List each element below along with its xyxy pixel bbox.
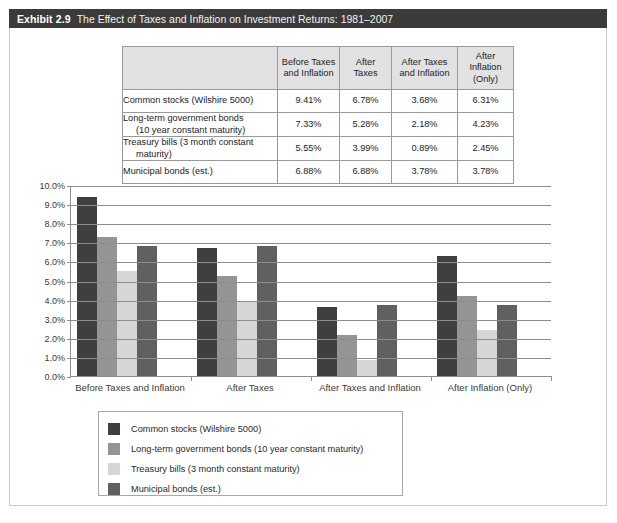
exhibit-number: Exhibit 2.9 (17, 13, 71, 25)
row-label-line-2: (10 year constant maturity) (123, 125, 277, 137)
cell-value: 3.68% (392, 90, 458, 113)
gridline (71, 358, 551, 359)
column-header-after-taxes-and-inflation: After Taxes and Inflation (392, 47, 458, 90)
gridline (71, 224, 551, 225)
exhibit-header-bar: Exhibit 2.9 The Effect of Taxes and Infl… (9, 9, 607, 28)
x-axis-tick-label: After Taxes and Inflation (319, 382, 421, 393)
cell-value: 2.18% (392, 113, 458, 137)
row-label-treasury-bills: Treasury bills (3 month constant maturit… (123, 137, 278, 161)
legend-swatch-icon (108, 423, 120, 435)
cell-value: 5.28% (340, 113, 392, 137)
chart-legend: Common stocks (Wilshire 5000)Long-term g… (98, 411, 403, 496)
y-axis-tick (67, 186, 71, 187)
x-axis-tick (551, 376, 552, 381)
row-label-line-1: Long-term government bonds (123, 113, 244, 123)
cell-value: 2.45% (458, 137, 514, 161)
returns-table: Before Taxes and Inflation After Taxes A… (122, 46, 514, 184)
header-line-1: After (356, 57, 375, 67)
y-axis-tick (67, 243, 71, 244)
cell-value: 6.78% (340, 90, 392, 113)
y-axis-tick (67, 205, 71, 206)
table-row: Long-term government bonds (10 year cons… (123, 113, 514, 137)
y-axis-tick (67, 301, 71, 302)
legend-label: Municipal bonds (est.) (131, 484, 221, 494)
bar (337, 335, 357, 377)
legend-item: Municipal bonds (est.) (108, 479, 402, 498)
table-row: Common stocks (Wilshire 5000) 9.41% 6.78… (123, 90, 514, 113)
cell-value: 3.78% (458, 161, 514, 184)
column-header-blank (123, 47, 278, 90)
legend-item: Long-term government bonds (10 year cons… (108, 439, 402, 458)
cell-value: 7.33% (278, 113, 340, 137)
x-axis-tick-label: Before Taxes and Inflation (75, 382, 185, 393)
gridline (71, 205, 551, 206)
y-axis-tick-label: 1.0% (44, 353, 65, 363)
x-axis-labels: Before Taxes and InflationAfter TaxesAft… (70, 382, 550, 398)
header-line-1: After (476, 51, 495, 61)
gridline (71, 282, 551, 283)
column-header-before-taxes-and-inflation: Before Taxes and Inflation (278, 47, 340, 90)
bar (497, 305, 517, 377)
table-row: Municipal bonds (est.) 6.88% 6.88% 3.78%… (123, 161, 514, 184)
plot-area (70, 186, 551, 377)
header-line-1: After Taxes (402, 57, 448, 67)
y-axis-tick-label: 8.0% (44, 219, 65, 229)
bar (117, 271, 137, 377)
bar (217, 276, 237, 377)
row-label-long-term-government-bonds: Long-term government bonds (10 year cons… (123, 113, 278, 137)
row-label-line-1: Municipal bonds (est.) (123, 166, 213, 176)
legend-label: Treasury bills (3 month constant maturit… (131, 464, 300, 474)
header-line-2: and Inflation (399, 68, 449, 78)
y-axis-tick (67, 339, 71, 340)
row-label-municipal-bonds: Municipal bonds (est.) (123, 161, 278, 184)
header-line-2: Taxes (354, 68, 378, 78)
table-header: Before Taxes and Inflation After Taxes A… (123, 47, 514, 90)
bar (437, 256, 457, 377)
cell-value: 5.55% (278, 137, 340, 161)
bar (477, 330, 497, 377)
exhibit-page: Exhibit 2.9 The Effect of Taxes and Infl… (0, 0, 617, 523)
gridline (71, 320, 551, 321)
cell-value: 6.31% (458, 90, 514, 113)
y-axis-tick (67, 358, 71, 359)
row-label-line-1: Common stocks (Wilshire 5000) (123, 95, 253, 105)
legend-swatch-icon (108, 483, 120, 495)
bar (317, 307, 337, 377)
header-line-1: Before Taxes (282, 57, 335, 67)
gridline (71, 262, 551, 263)
y-axis-tick (67, 377, 71, 378)
legend-swatch-icon (108, 443, 120, 455)
y-axis-tick-label: 9.0% (44, 200, 65, 210)
bar (457, 296, 477, 377)
x-axis-tick-label: After Inflation (Only) (448, 382, 532, 393)
column-header-after-taxes: After Taxes (340, 47, 392, 90)
cell-value: 6.88% (340, 161, 392, 184)
y-axis-tick-label: 2.0% (44, 334, 65, 344)
row-label-line-2: maturity) (123, 149, 277, 161)
legend-label: Common stocks (Wilshire 5000) (131, 424, 261, 434)
legend-label: Long-term government bonds (10 year cons… (131, 444, 363, 454)
table-row: Treasury bills (3 month constant maturit… (123, 137, 514, 161)
gridline (71, 301, 551, 302)
gridline (71, 339, 551, 340)
table-body: Common stocks (Wilshire 5000) 9.41% 6.78… (123, 90, 514, 184)
cell-value: 9.41% (278, 90, 340, 113)
table-header-row: Before Taxes and Inflation After Taxes A… (123, 47, 514, 90)
row-label-line-1: Treasury bills (3 month constant (123, 137, 253, 147)
gridline (71, 243, 551, 244)
y-axis-tick (67, 262, 71, 263)
y-axis-tick-label: 3.0% (44, 315, 65, 325)
legend-swatch-icon (108, 463, 120, 475)
y-axis-tick-label: 4.0% (44, 296, 65, 306)
column-header-after-inflation-only: After Inflation (Only) (458, 47, 514, 90)
exhibit-title: The Effect of Taxes and Inflation on Inv… (77, 13, 394, 25)
y-axis-tick-label: 5.0% (44, 277, 65, 287)
y-axis-tick-label: 6.0% (44, 257, 65, 267)
x-axis-line (71, 376, 551, 377)
y-axis-tick-label: 7.0% (44, 238, 65, 248)
bar (377, 305, 397, 377)
cell-value: 0.89% (392, 137, 458, 161)
gridline (71, 186, 551, 187)
bar (357, 360, 377, 377)
y-axis-tick (67, 224, 71, 225)
